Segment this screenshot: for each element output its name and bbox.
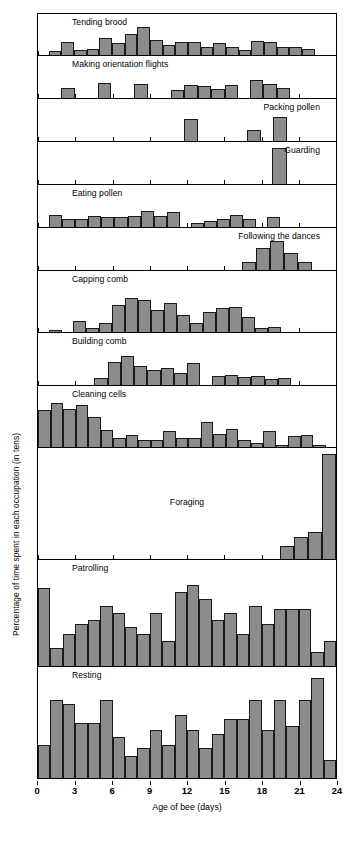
bar: [277, 88, 291, 98]
bar: [101, 217, 114, 228]
bar: [87, 49, 100, 55]
bar: [226, 47, 239, 55]
bar: [278, 378, 291, 385]
bar: [238, 377, 251, 385]
bar: [167, 212, 180, 227]
bar: [125, 756, 137, 778]
bar: [164, 303, 177, 332]
bar: [230, 215, 243, 227]
bar: [262, 624, 274, 666]
x-tick-label: 15: [219, 785, 229, 796]
bar: [61, 42, 74, 55]
bar: [163, 45, 176, 56]
panel-y-ticks: [37, 333, 38, 385]
panel-label: Guarding: [284, 145, 320, 155]
bar: [88, 216, 101, 227]
bar: [177, 315, 190, 332]
panel-y-ticks: [37, 271, 38, 332]
bar: [112, 43, 125, 55]
bar: [49, 215, 62, 227]
panel-building-comb: Building comb: [37, 333, 337, 386]
bar: [267, 217, 280, 227]
bar: [49, 330, 62, 332]
panel-y-ticks: [37, 99, 38, 141]
bar: [313, 445, 326, 447]
bar: [94, 378, 107, 385]
bar: [288, 436, 301, 447]
bar: [263, 84, 277, 98]
bar: [238, 440, 251, 447]
panel-label: Patrolling: [72, 563, 108, 573]
bar: [286, 726, 298, 778]
bar: [276, 445, 289, 447]
bar: [212, 620, 224, 666]
bar: [88, 417, 101, 448]
bar: [251, 376, 264, 385]
panel-label: Eating pollen: [72, 188, 122, 198]
panel-bars: [38, 560, 336, 666]
bar: [61, 88, 75, 99]
bar: [112, 305, 125, 332]
bar: [98, 83, 112, 98]
bar: [280, 546, 294, 559]
bar: [212, 734, 224, 778]
panel-label: Building comb: [72, 336, 127, 346]
bar: [216, 308, 229, 332]
bar: [286, 609, 298, 666]
bar: [224, 613, 236, 666]
bee-occupation-chart: Percentage of time spent in each occupat…: [0, 0, 357, 849]
bar: [38, 410, 51, 447]
panel-capping-comb: Capping comb: [37, 271, 337, 333]
panel-label: Packing pollen: [263, 102, 320, 112]
bar: [114, 217, 127, 228]
panel-label: Following the dances: [238, 231, 320, 241]
bar: [187, 363, 200, 385]
bar: [86, 328, 99, 332]
panel-patrolling: Patrolling: [37, 560, 337, 667]
bar: [150, 730, 162, 778]
x-axis-title: Age of bee (days): [37, 802, 337, 812]
bar: [265, 379, 278, 385]
bar: [101, 430, 114, 447]
bar: [299, 700, 311, 778]
bar: [184, 85, 198, 98]
bar: [255, 328, 268, 332]
panel-label: Making orientation flights: [72, 59, 168, 69]
panel-stack: Tending broodMaking orientation flightsP…: [37, 13, 337, 781]
panel-resting: Resting: [37, 667, 337, 779]
bar: [199, 748, 211, 778]
bar: [74, 50, 87, 55]
bar: [75, 624, 87, 666]
bar: [250, 80, 264, 98]
bar: [187, 585, 199, 666]
panel-label: Tending brood: [72, 17, 127, 27]
panel-y-ticks: [37, 667, 38, 778]
bar: [212, 376, 225, 385]
bar: [113, 613, 125, 666]
bar: [100, 700, 112, 778]
bar: [50, 648, 62, 666]
bar: [237, 719, 249, 778]
bar: [50, 700, 62, 778]
bar: [75, 219, 88, 227]
panel-tending-brood: Tending brood: [37, 13, 337, 56]
bar: [302, 49, 315, 55]
bar: [264, 42, 277, 55]
panel-y-ticks: [37, 560, 38, 666]
bar: [162, 745, 174, 778]
bar: [322, 454, 336, 559]
bar: [226, 429, 239, 447]
bar: [161, 368, 174, 385]
bar: [190, 323, 203, 332]
panel-following-the-dances: Following the dances: [37, 228, 337, 271]
bar: [204, 221, 217, 227]
bar: [75, 723, 87, 779]
bar: [268, 327, 281, 332]
bar: [301, 435, 314, 447]
bar: [175, 42, 188, 55]
x-tick-label: 21: [294, 785, 304, 796]
bar: [225, 375, 238, 385]
bar: [113, 737, 125, 778]
bar: [311, 678, 323, 778]
bar: [242, 262, 256, 270]
